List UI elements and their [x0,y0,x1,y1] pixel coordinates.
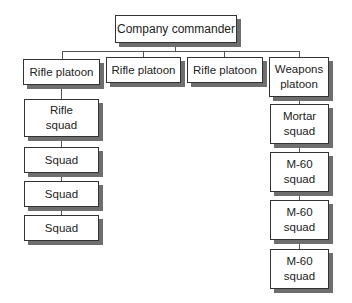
node-company-commander: Company commander [115,15,237,43]
node-label: Squad [45,153,78,168]
node-label: Weapons platoon [275,62,323,92]
node-squad-1: Squad [24,147,99,173]
node-squad-3: Squad [24,215,99,241]
node-weapons-platoon: Weapons platoon [269,57,329,97]
node-label: Rifle platoon [193,63,257,78]
node-rifle-platoon-1: Rifle platoon [23,59,100,85]
connector-bus [62,51,300,52]
node-label: Rifle squad [46,103,77,133]
node-label: Mortar squad [283,109,316,139]
node-label: Rifle platoon [112,63,176,78]
node-rifle-platoon-2: Rifle platoon [106,57,181,83]
node-label: Company commander [117,22,235,37]
node-label: M-60 squad [284,205,315,235]
node-label: M-60 squad [284,254,315,284]
node-mortar-squad: Mortar squad [270,104,329,144]
connector-root-down [175,43,176,51]
node-label: Squad [45,187,78,202]
node-m60-squad-3: M-60 squad [270,249,329,289]
node-label: Rifle platoon [30,65,94,80]
node-m60-squad-2: M-60 squad [270,200,329,240]
node-label: M-60 squad [284,157,315,187]
node-rifle-squad: Rifle squad [24,99,99,137]
connector-drop-platoon-1 [62,51,63,59]
node-m60-squad-1: M-60 squad [270,152,329,192]
node-label: Squad [45,221,78,236]
node-rifle-platoon-3: Rifle platoon [187,57,263,83]
node-squad-2: Squad [24,181,99,207]
